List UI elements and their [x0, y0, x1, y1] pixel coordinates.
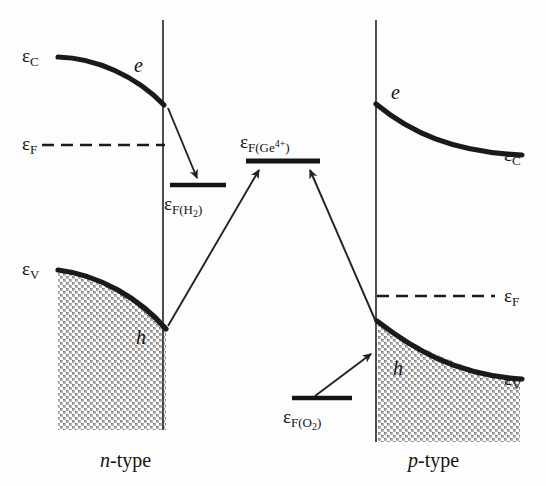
epsilon-c-right-label: εC	[504, 145, 521, 167]
n-type-label: n-type	[100, 450, 151, 470]
ge-to-hole-arrow	[310, 170, 376, 322]
fermi-ge-label: εF(Ge4+)	[240, 132, 290, 154]
electron-to-h2-arrow	[168, 108, 197, 178]
hole-left-label: h	[136, 327, 146, 347]
epsilon-v-right-label: εV	[504, 369, 521, 391]
electron-left-label: e	[134, 55, 143, 75]
n-type-valence-fill	[58, 271, 166, 430]
epsilon-c-left-label: εC	[22, 46, 39, 68]
p-type-conduction-band	[376, 104, 522, 155]
p-type-label: p-type	[408, 450, 459, 470]
diagram-canvas	[0, 0, 546, 486]
epsilon-v-left-label: εV	[22, 259, 39, 281]
electron-right-label: e	[391, 82, 400, 102]
epsilon-f-left-label: εF	[22, 134, 37, 156]
hole-right-label: h	[393, 358, 403, 378]
band-diagram-figure: εC εF εV εC εF εV e e h h εF(H2) εF(Ge4+…	[0, 0, 546, 486]
epsilon-f-right-label: εF	[504, 286, 519, 308]
fermi-h2-label: εF(H2)	[164, 194, 202, 219]
o2-to-hole-arrow	[315, 354, 371, 396]
fermi-o2-label: εF(O2)	[283, 407, 321, 432]
n-type-conduction-band	[58, 57, 164, 105]
